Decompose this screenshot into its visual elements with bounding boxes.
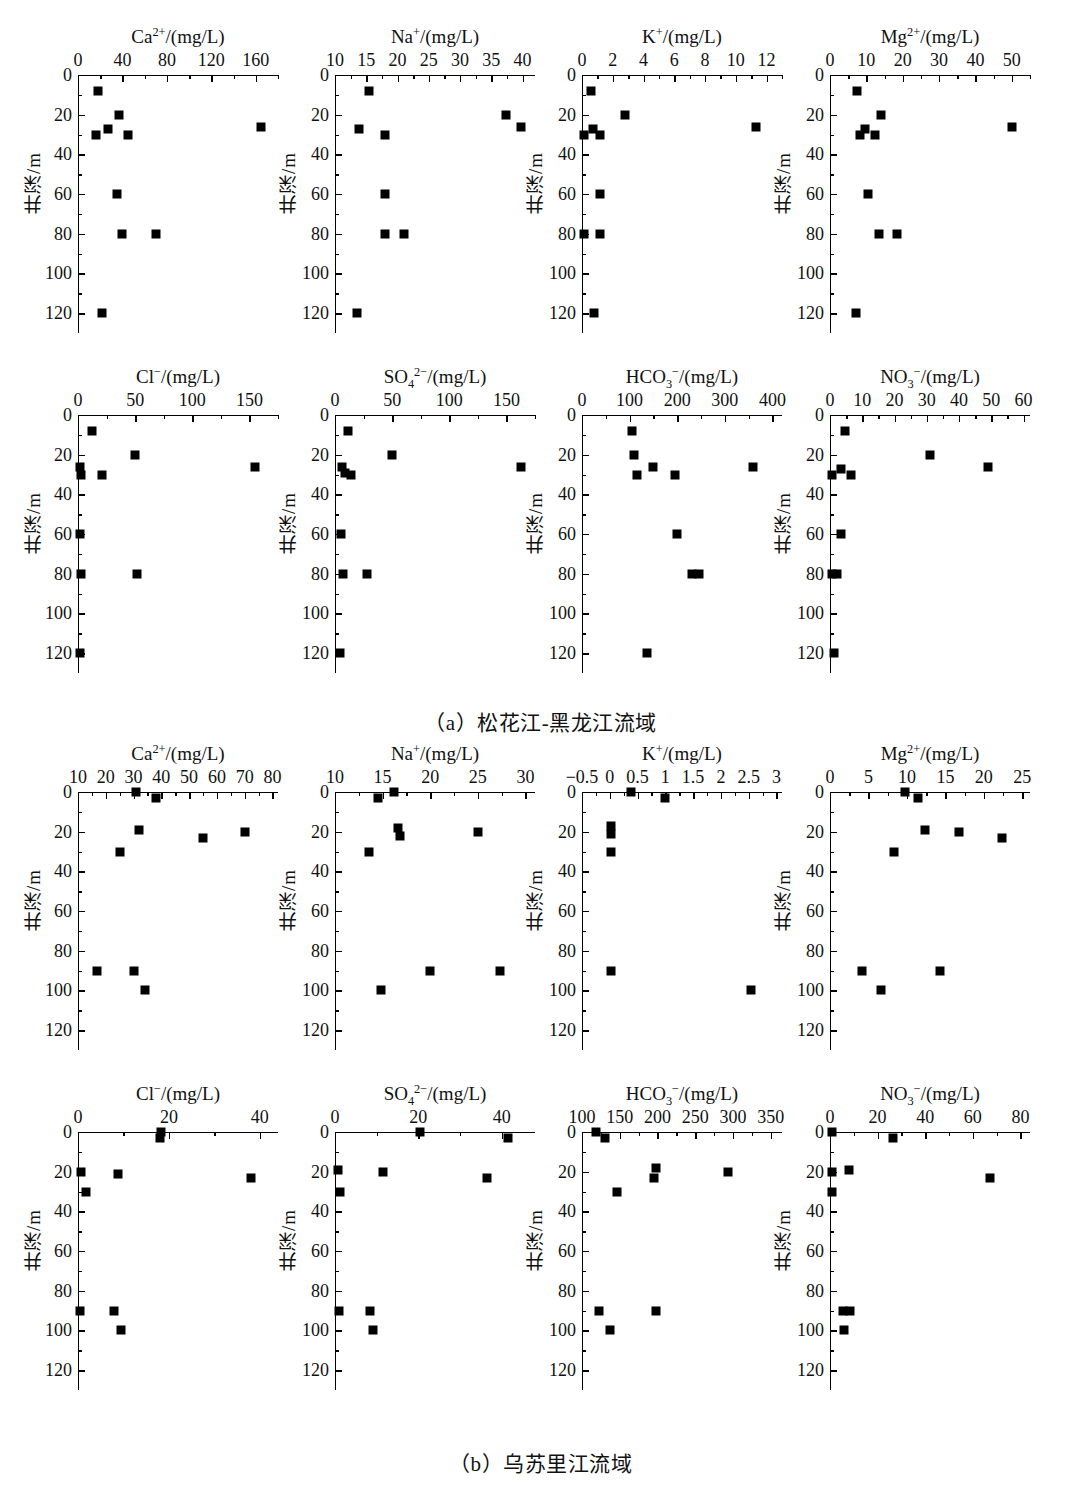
x-tick-mark-minor: [597, 75, 598, 79]
y-tick-mark: [335, 871, 342, 872]
x-tick-mark: [693, 792, 694, 799]
y-tick-mark: [830, 832, 837, 833]
y-axis-label: 井深/m: [522, 152, 549, 214]
y-tick-mark: [582, 115, 589, 116]
plot-title-a-k: K+/(mg/L): [582, 25, 782, 48]
y-tick-mark-minor: [335, 852, 339, 853]
data-point: [829, 649, 838, 658]
x-tick-label: 40: [514, 51, 532, 69]
x-tick-mark-minor: [413, 75, 414, 79]
y-tick-mark: [830, 871, 837, 872]
x-axis-tick-labels-a-hco3: 0100200300400: [582, 391, 782, 409]
data-point: [876, 110, 885, 119]
x-axis-tick-labels-b-na: 1015202530: [335, 768, 535, 786]
x-tick-label: 30: [516, 768, 534, 786]
y-tick-mark: [78, 455, 85, 456]
x-tick-mark-minor: [690, 75, 691, 79]
y-tick-mark: [582, 75, 589, 76]
x-tick-mark-minor: [849, 792, 850, 796]
x-tick-mark: [491, 75, 492, 82]
data-point: [381, 229, 390, 238]
data-point: [352, 309, 361, 318]
data-point: [595, 1306, 604, 1315]
x-tick-label: 6: [670, 51, 679, 69]
x-tick-mark: [705, 75, 706, 82]
data-point: [388, 450, 397, 459]
y-tick-mark: [78, 911, 85, 912]
plot-title-b-mg: Mg2+/(mg/L): [830, 742, 1030, 765]
y-tick-mark: [78, 75, 85, 76]
y-tick-mark-minor: [582, 1350, 586, 1351]
y-tick-mark-minor: [830, 1010, 834, 1011]
data-point: [93, 966, 102, 975]
x-tick-label: 15: [374, 768, 392, 786]
x-tick-label: 250: [682, 1108, 709, 1126]
x-tick-label: 100: [436, 391, 463, 409]
plot-axes-b-na: 020406080100120: [335, 792, 535, 1050]
y-tick-mark-minor: [335, 1350, 339, 1351]
y-tick-mark: [335, 415, 342, 416]
y-tick-mark: [582, 1291, 589, 1292]
y-tick-label: 20: [806, 444, 824, 465]
y-tick-label: 60: [54, 184, 72, 205]
x-tick-mark-minor: [752, 1132, 753, 1136]
plot-title-b-so4: SO42−/(mg/L): [335, 1082, 535, 1109]
data-point: [661, 793, 670, 802]
y-tick-mark-minor: [830, 1350, 834, 1351]
axes-frame: [335, 792, 535, 1050]
x-tick-mark: [1012, 75, 1013, 82]
y-tick-mark: [335, 832, 342, 833]
data-point: [503, 1133, 512, 1142]
x-tick-mark: [725, 415, 726, 422]
x-tick-label: 4: [639, 51, 648, 69]
x-tick-mark-minor: [221, 415, 222, 419]
y-tick-mark-minor: [582, 812, 586, 813]
y-tick-label: 20: [558, 821, 576, 842]
x-tick-label: 200: [664, 391, 691, 409]
x-tick-mark: [772, 415, 773, 422]
y-tick-mark: [830, 494, 837, 495]
y-tick-label: 20: [311, 1161, 329, 1182]
data-point: [626, 788, 635, 797]
y-tick-mark: [335, 613, 342, 614]
x-tick-mark: [260, 1132, 261, 1139]
plot-axes-b-ca: 020406080100120: [78, 792, 278, 1050]
plot-title-a-na: Na+/(mg/L): [335, 25, 535, 48]
y-tick-mark-minor: [78, 514, 82, 515]
y-tick-label: 20: [558, 1161, 576, 1182]
data-point: [889, 1133, 898, 1142]
y-tick-label: 80: [806, 940, 824, 961]
scatter-plot-b-mg: Mg2+/(mg/L)0510152025020406080100120井深/m: [830, 742, 1030, 1050]
y-tick-label: 20: [806, 821, 824, 842]
x-tick-label: 2: [716, 768, 725, 786]
plot-axes-a-cl: 020406080100120: [78, 415, 278, 673]
x-tick-mark-minor: [624, 792, 625, 796]
x-tick-label: 0: [74, 1108, 83, 1126]
x-tick-label: 12: [758, 51, 776, 69]
y-tick-label: 100: [302, 1320, 329, 1341]
x-tick-label: 5: [864, 768, 873, 786]
y-tick-mark-minor: [335, 214, 339, 215]
data-point: [151, 793, 160, 802]
x-tick-mark: [862, 415, 863, 422]
y-tick-mark: [830, 313, 837, 314]
x-tick-mark: [638, 792, 639, 799]
x-axis-tick-labels-a-no3: 0102030405060: [830, 391, 1030, 409]
y-tick-mark-minor: [335, 435, 339, 436]
x-tick-mark-minor: [651, 792, 652, 796]
x-tick-mark: [767, 75, 768, 82]
data-point: [416, 1128, 425, 1137]
y-axis-label: 井深/m: [20, 152, 47, 214]
y-tick-mark: [335, 455, 342, 456]
y-tick-mark: [830, 951, 837, 952]
x-axis-tick-labels-b-mg: 0510152025: [830, 768, 1030, 786]
data-point: [985, 1173, 994, 1182]
y-tick-mark: [78, 234, 85, 235]
x-tick-mark: [736, 75, 737, 82]
y-tick-label: 40: [558, 861, 576, 882]
data-point: [75, 530, 84, 539]
data-point: [596, 190, 605, 199]
data-point: [827, 1187, 836, 1196]
axes-frame: [582, 75, 782, 333]
y-tick-mark: [335, 154, 342, 155]
